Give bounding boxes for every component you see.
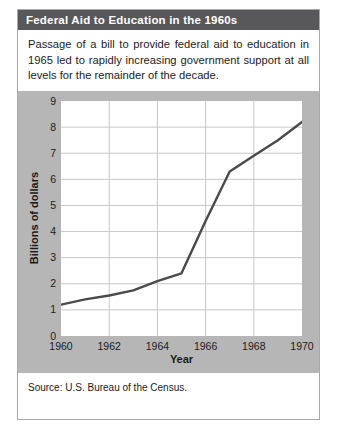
page-title: Federal Aid to Education in the 1960s — [26, 14, 237, 26]
y-tick-label: 5 — [50, 199, 56, 211]
figure-card: Federal Aid to Education in the 1960s Pa… — [17, 9, 320, 420]
horizontal-gridlines — [61, 127, 302, 310]
y-tick-label: 8 — [50, 121, 56, 133]
source-text: Source: U.S. Bureau of the Census. — [28, 382, 309, 393]
x-tick-label: 1968 — [242, 340, 265, 352]
y-tick-label: 3 — [50, 251, 56, 263]
figure-title-bar: Federal Aid to Education in the 1960s — [18, 10, 319, 30]
data-series-line — [61, 121, 302, 304]
caption-block: Passage of a bill to provide federal aid… — [18, 30, 319, 91]
x-tick-label: 1964 — [146, 340, 169, 352]
y-tick-label: 6 — [50, 173, 56, 185]
x-tick-label: 1966 — [194, 340, 217, 352]
x-tick-label: 1962 — [98, 340, 121, 352]
x-tick-label: 1960 — [49, 340, 72, 352]
vertical-gridlines — [109, 101, 254, 336]
y-tick-label: 9 — [50, 95, 56, 107]
y-tick-label: 7 — [50, 147, 56, 159]
x-axis-label: Year — [61, 353, 302, 365]
y-axis-label-text: Billions of dollars — [28, 172, 40, 264]
caption-text: Passage of a bill to provide federal aid… — [28, 37, 309, 84]
source-block: Source: U.S. Bureau of the Census. — [18, 373, 319, 402]
line-chart-svg — [61, 101, 302, 336]
plot-frame: 0123456789 196019621964196619681970 — [61, 101, 302, 336]
y-axis-label: Billions of dollars — [26, 101, 42, 336]
x-tick-label: 1970 — [290, 340, 313, 352]
y-tick-label: 1 — [50, 303, 56, 315]
chart-area: Billions of dollars 0123456789 196019621… — [18, 91, 319, 373]
y-tick-label: 4 — [50, 225, 56, 237]
y-tick-label: 2 — [50, 277, 56, 289]
